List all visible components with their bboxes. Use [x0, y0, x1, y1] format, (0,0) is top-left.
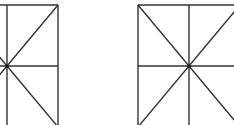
center-point	[187, 64, 190, 67]
center-point	[5, 64, 8, 67]
figure-line	[7, 66, 58, 125]
figure-line	[0, 66, 7, 125]
figure-line	[7, 5, 58, 66]
figure-line	[0, 5, 7, 66]
right-divided-rectangle	[138, 5, 234, 125]
diagram-canvas	[0, 0, 234, 125]
left-divided-rectangle	[0, 5, 58, 125]
figure-line	[138, 5, 234, 125]
